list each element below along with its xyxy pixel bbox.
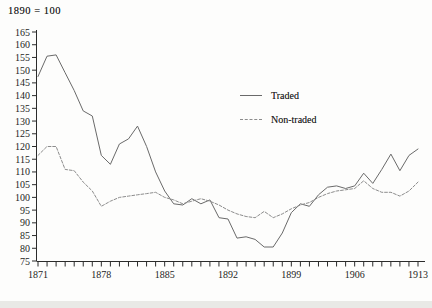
chart-plot: 7580859095100105110115120125130135140145… [0,0,432,308]
legend: Traded Non-traded [240,88,317,136]
figure: 1890 = 100 75808590951001051101151201251… [0,0,432,308]
traded-line-sample-icon [240,95,262,96]
x-tick-label: 1892 [218,269,238,280]
y-tick-label: 85 [20,230,30,241]
y-tick-label: 115 [15,154,30,165]
y-tick-label: 100 [15,192,30,203]
x-tick-label: 1885 [155,269,175,280]
y-tick-label: 135 [15,103,30,114]
y-tick-label: 105 [15,179,30,190]
y-tick-label: 75 [20,256,30,267]
axes: 7580859095100105110115120125130135140145… [15,27,428,281]
y-tick-label: 130 [15,116,30,127]
y-tick-label: 90 [20,217,30,228]
y-tick-label: 110 [15,166,30,177]
y-tick-label: 145 [15,77,30,88]
legend-label-traded: Traded [271,90,299,101]
x-tick-label: 1906 [345,269,365,280]
x-tick-label: 1878 [91,269,111,280]
y-tick-label: 150 [15,65,30,76]
y-tick-label: 125 [15,128,30,139]
non-traded-line [38,147,418,218]
non-traded-line-sample-icon [240,119,262,120]
legend-item-non-traded: Non-traded [240,112,317,126]
y-tick-label: 140 [15,90,30,101]
x-tick-label: 1871 [28,269,48,280]
scan-edge-band [0,301,432,308]
y-tick-label: 160 [15,39,30,50]
series-lines [38,55,418,247]
legend-label-non-traded: Non-traded [271,114,317,125]
y-tick-label: 165 [15,27,30,38]
chart-title: 1890 = 100 [8,5,61,16]
traded-line [38,55,418,247]
legend-item-traded: Traded [240,88,317,102]
y-tick-label: 155 [15,52,30,63]
y-tick-label: 95 [20,205,30,216]
y-tick-label: 80 [20,243,30,254]
y-tick-label: 120 [15,141,30,152]
x-tick-label: 1913 [408,269,428,280]
x-tick-label: 1899 [281,269,301,280]
